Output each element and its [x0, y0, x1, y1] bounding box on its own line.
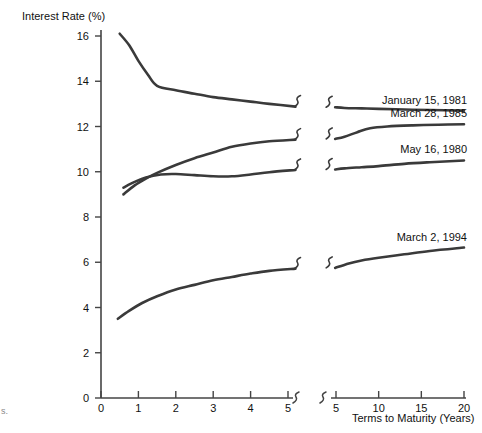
x-tick-label-left-4: 4: [248, 402, 254, 414]
y-tick-label-14: 14: [77, 75, 89, 87]
curve-break-right-series-4: [326, 257, 332, 268]
x-axis-title: Terms to Maturity (Years): [352, 412, 474, 424]
x-tick-label-left-1: 1: [135, 402, 141, 414]
x-axis-break-right-icon: [320, 392, 326, 403]
y-tick-label-6: 6: [83, 256, 89, 268]
y-tick-label-4: 4: [83, 302, 89, 314]
y-tick-label-16: 16: [77, 30, 89, 42]
y-axis-title: Interest Rate (%): [22, 10, 105, 22]
x-tick-label-left-0: 0: [98, 402, 104, 414]
y-tick-label-10: 10: [77, 166, 89, 178]
y-tick-label-0: 0: [83, 392, 89, 404]
x-axis-ticks-right: 5101520: [333, 391, 470, 414]
series-label-1: January 15, 1981: [382, 94, 467, 106]
curve-left-series-4: [118, 269, 296, 319]
series-label-3: May 16, 1980: [400, 143, 467, 155]
y-tick-label-8: 8: [83, 211, 89, 223]
yield-curve-chart: Interest Rate (%) 0246810121416 012345 5…: [0, 0, 482, 433]
series-label-group: January 15, 1981March 28, 1985May 16, 19…: [382, 94, 467, 243]
corner-text-artifact: s.: [1, 406, 8, 416]
y-tick-label-12: 12: [77, 121, 89, 133]
y-axis-ticks: 0246810121416: [77, 30, 101, 404]
series-label-2: March 28, 1985: [391, 107, 467, 119]
x-tick-label-left-5: 5: [285, 402, 291, 414]
curve-break-right-series-1: [326, 96, 332, 107]
curve-break-right-series-2: [326, 128, 332, 139]
chart-canvas: Interest Rate (%) 0246810121416 012345 5…: [0, 0, 482, 433]
curve-left-series-2: [123, 140, 295, 195]
x-tick-label-left-2: 2: [173, 402, 179, 414]
series-label-4: March 2, 1994: [397, 231, 467, 243]
curve-left-series-3: [123, 170, 295, 188]
curve-group: [118, 34, 464, 319]
curve-break-left-series-1: [294, 96, 300, 107]
curve-right-series-2: [335, 124, 464, 139]
curve-break-left-series-3: [294, 159, 300, 170]
y-tick-label-2: 2: [83, 347, 89, 359]
x-axis-break-left-icon: [293, 392, 299, 403]
curve-break-left-series-2: [294, 129, 300, 140]
x-tick-label-right-5: 5: [333, 402, 339, 414]
curve-left-series-1: [120, 34, 296, 107]
x-tick-label-left-3: 3: [210, 402, 216, 414]
curve-right-series-4: [335, 248, 464, 268]
curve-break-left-series-4: [294, 258, 300, 269]
curve-break-right-series-3: [326, 158, 332, 169]
curve-right-series-3: [335, 160, 464, 169]
x-axis-ticks-left: 012345: [98, 391, 291, 414]
